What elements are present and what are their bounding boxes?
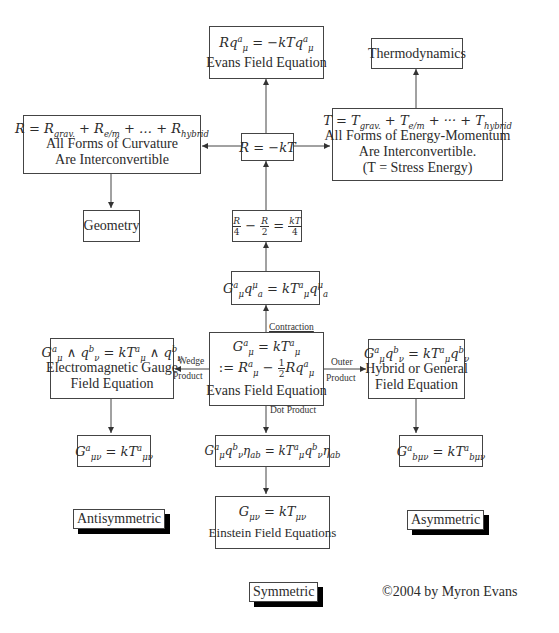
- node-asymmetric-equation: Gabμν = kTabμν: [399, 435, 483, 467]
- edge-label-dot-product: Dot Product: [270, 405, 316, 415]
- einstein-equation: Gμν = kTμν: [239, 504, 307, 519]
- energy-line2: Are Interconvertible.: [359, 144, 476, 160]
- node-dot-product-equation: Gaμqbνηab = kTaμqbνηab: [215, 435, 330, 467]
- asym-equation: Gabμν = kTabμν: [397, 444, 486, 459]
- node-em-gauge-field-equation: Gaμ ∧ qbν = kTaμ ∧ qbν Electromagnetic G…: [50, 338, 174, 399]
- label-symmetric: Symmetric: [249, 582, 318, 602]
- hybrid-equation: Gaμqbν = kTaμqbν: [364, 346, 469, 361]
- node-evans-field-equation-top: Rqaμ = −kTqaμ Evans Field Equation: [209, 26, 324, 79]
- node-fraction-equation: R4 − R2 = kT4: [232, 210, 302, 242]
- em-gauge-line2: Field Equation: [71, 376, 154, 392]
- thermodynamics-label: Thermodynamics: [368, 46, 466, 62]
- node-hybrid-field-equation: Gaμqbν = kTaμqbν Hybrid or General Field…: [368, 339, 465, 399]
- label-asymmetric: Asymmetric: [407, 510, 484, 530]
- energy-line3: (T = Stress Energy): [363, 160, 473, 176]
- node-geometry: Geometry: [83, 210, 140, 242]
- evans-top-equation: Rqaμ = −kTqaμ: [219, 35, 313, 50]
- node-contraction-equation: Gaμqμa = kTaμqμa: [231, 271, 320, 305]
- r-eq-equation: R = −kT: [239, 140, 295, 155]
- node-evans-field-equation-center: Gaμ = kTaμ := Raμ − 12Rqaμ Evans Field E…: [209, 332, 324, 406]
- evans-center-label: Evans Field Equation: [206, 383, 327, 399]
- node-thermodynamics: Thermodynamics: [371, 38, 463, 69]
- dot-product-equation: Gaμqbνηab = kTaμqbνηab: [205, 444, 341, 459]
- antisym-equation: Gaμν = kTaμν: [75, 444, 153, 459]
- hybrid-line2: Field Equation: [375, 377, 458, 393]
- geometry-label: Geometry: [84, 218, 140, 234]
- label-antisymmetric: Antisymmetric: [73, 509, 165, 529]
- em-gauge-equation: Gaμ ∧ qbν = kTaμ ∧ qbν: [42, 345, 183, 360]
- edge-label-outer-product: Product: [326, 373, 356, 383]
- em-gauge-line1: Electromagnetic Gauge: [46, 360, 178, 376]
- fraction-equation: R4 − R2 = kT4: [232, 216, 301, 237]
- node-energy-momentum: T = Tgrav. + Te/m + ··· + Thybrid All Fo…: [332, 108, 503, 181]
- energy-equation: T = Tgrav. + Te/m + ··· + Thybrid: [323, 113, 512, 128]
- curvature-line2: Are Interconvertible: [55, 152, 169, 168]
- curvature-equation: R = Rgrav. + Re/m + … + Rhybrid: [15, 121, 209, 136]
- node-r-equals-minus-kt: R = −kT: [241, 133, 294, 161]
- node-curvature: R = Rgrav. + Re/m + … + Rhybrid All Form…: [23, 115, 201, 174]
- node-einstein-field-equations: Gμν = kTμν Einstein Field Equations: [215, 496, 330, 549]
- node-antisymmetric-equation: Gaμν = kTaμν: [77, 435, 151, 467]
- curvature-line1: All Forms of Curvature: [46, 136, 178, 152]
- copyright-notice: ©2004 by Myron Evans: [382, 584, 517, 600]
- evans-center-equation2: := Raμ − 12Rqaμ: [219, 358, 314, 379]
- energy-line1: All Forms of Energy-Momentum: [325, 128, 511, 144]
- contraction-equation: Gaμqμa = kTaμqμa: [223, 281, 328, 296]
- edge-label-outer: Outer: [331, 357, 353, 367]
- einstein-label: Einstein Field Equations: [209, 525, 337, 541]
- evans-top-label: Evans Field Equation: [206, 55, 327, 71]
- edge-label-contraction: Contraction: [269, 322, 314, 332]
- evans-center-equation1: Gaμ = kTaμ: [233, 339, 300, 354]
- hybrid-line1: Hybrid or General: [365, 361, 468, 377]
